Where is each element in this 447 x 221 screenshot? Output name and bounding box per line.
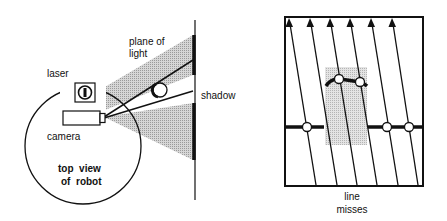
light-plane-lower <box>104 103 193 160</box>
label-line: line <box>344 191 360 202</box>
arrow-up-icon <box>389 18 397 27</box>
label-plane-of: plane of <box>129 36 165 47</box>
label-shadow: shadow <box>201 90 236 101</box>
label-laser: laser <box>47 68 69 79</box>
label-misses: misses <box>336 204 367 215</box>
arrow-up-icon <box>327 18 335 27</box>
arrow-up-icon <box>307 18 315 27</box>
label-light: light <box>129 48 148 59</box>
laser <box>75 83 95 102</box>
camera-image-diagram: line misses <box>285 17 423 215</box>
label-camera: camera <box>47 131 81 142</box>
arrow-up-icon <box>368 18 376 27</box>
arrowheads <box>286 18 397 27</box>
arrow-up-icon <box>347 18 355 27</box>
label-top-view: top view <box>58 163 101 174</box>
camera <box>63 111 105 125</box>
scanner-top-view-diagram: plane of light laser shadow camera top v… <box>25 20 236 204</box>
diagram-canvas: plane of light laser shadow camera top v… <box>0 0 447 221</box>
arrow-up-icon <box>286 18 294 27</box>
label-of-robot: of robot <box>61 176 102 187</box>
